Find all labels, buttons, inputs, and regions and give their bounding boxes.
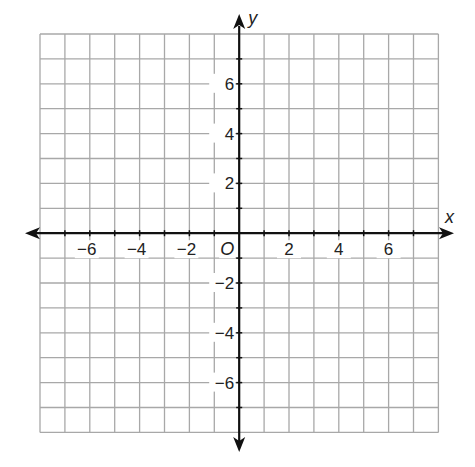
x-axis-label: x — [444, 207, 455, 227]
x-tick-label: −4 — [127, 240, 146, 259]
y-tick-label: 6 — [225, 75, 234, 94]
x-tick-label: −2 — [177, 240, 196, 259]
x-tick-label: 6 — [384, 240, 393, 259]
y-axis-label: y — [246, 8, 258, 28]
y-tick-label: 4 — [225, 125, 234, 144]
x-tick-label: 4 — [334, 240, 343, 259]
y-tick-label: −6 — [215, 374, 234, 393]
y-tick-label: −2 — [215, 274, 234, 293]
origin-label: O — [220, 239, 234, 259]
x-tick-label: −6 — [77, 240, 96, 259]
y-tick-label: 2 — [225, 174, 234, 193]
coordinate-plane: −6−4−2246642−2−4−6 x y O — [0, 0, 475, 467]
y-tick-label: −4 — [215, 324, 234, 343]
x-tick-label: 2 — [284, 240, 293, 259]
